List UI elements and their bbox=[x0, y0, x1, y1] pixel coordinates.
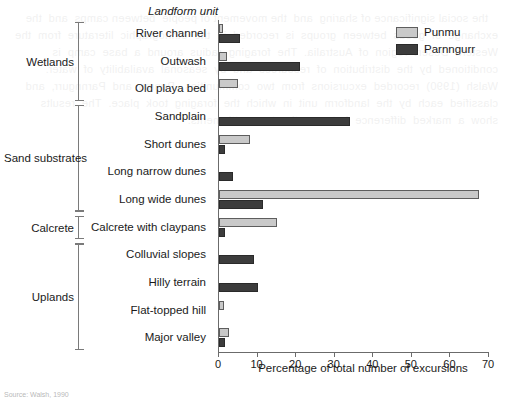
group-label: Wetlands bbox=[4, 56, 74, 68]
bar-parnngurr-long-wide-dunes bbox=[219, 200, 263, 209]
bar-punmu-short-dunes bbox=[219, 135, 250, 144]
chart-container: Landform unit Punmu Parnngurr River chan… bbox=[0, 0, 506, 399]
category-label: Sandplain bbox=[0, 110, 212, 122]
group-label: Sand substrates bbox=[4, 152, 74, 164]
group-bracket bbox=[78, 243, 88, 350]
group-label: Calcrete bbox=[4, 222, 74, 234]
bar-punmu-calcrete-with-claypans bbox=[219, 218, 277, 227]
bar-parnngurr-colluvial-slopes bbox=[219, 255, 254, 264]
figure-source-caption: Source: Walsh, 1990 bbox=[4, 391, 69, 398]
bar-parnngurr-sandplain bbox=[219, 117, 350, 126]
bar-punmu-long-wide-dunes bbox=[219, 190, 479, 199]
x-axis-tick bbox=[488, 352, 489, 357]
bar-punmu-major-valley bbox=[219, 328, 229, 337]
x-axis-tick bbox=[334, 352, 335, 357]
category-label: Long narrow dunes bbox=[0, 165, 212, 177]
x-axis-label: Percentage of total number of excursions bbox=[218, 362, 506, 374]
group-label: Uplands bbox=[4, 291, 74, 303]
bar-punmu-flat-topped-hill bbox=[219, 301, 224, 310]
category-label: Major valley bbox=[0, 331, 212, 343]
category-label: Hilly terrain bbox=[0, 276, 212, 288]
group-bracket bbox=[78, 216, 88, 240]
x-axis-tick bbox=[218, 352, 219, 357]
category-label: Colluvial slopes bbox=[0, 248, 212, 260]
x-axis-tick bbox=[449, 352, 450, 357]
bar-parnngurr-hilly-terrain bbox=[219, 283, 258, 292]
category-label: Flat-topped hill bbox=[0, 304, 212, 316]
category-label: Long wide dunes bbox=[0, 193, 212, 205]
bar-parnngurr-calcrete-with-claypans bbox=[219, 228, 225, 237]
bar-punmu-river-channel bbox=[219, 24, 223, 33]
bar-punmu-old-playa-bed bbox=[219, 79, 238, 88]
category-label: Old playa bed bbox=[0, 82, 212, 94]
group-bracket bbox=[78, 22, 88, 101]
x-axis-tick bbox=[295, 352, 296, 357]
bar-parnngurr-river-channel bbox=[219, 34, 240, 43]
category-label: River channel bbox=[0, 27, 212, 39]
bar-parnngurr-long-narrow-dunes bbox=[219, 172, 233, 181]
bar-parnngurr-outwash bbox=[219, 62, 300, 71]
bar-parnngurr-major-valley bbox=[219, 338, 225, 347]
x-axis-tick bbox=[372, 352, 373, 357]
category-label: Short dunes bbox=[0, 138, 212, 150]
bar-punmu-outwash bbox=[219, 52, 227, 61]
x-axis-tick bbox=[257, 352, 258, 357]
x-axis-line bbox=[218, 352, 488, 353]
plot-area: 010203040506070 bbox=[218, 20, 488, 352]
bar-parnngurr-short-dunes bbox=[219, 145, 225, 154]
x-axis-tick bbox=[411, 352, 412, 357]
